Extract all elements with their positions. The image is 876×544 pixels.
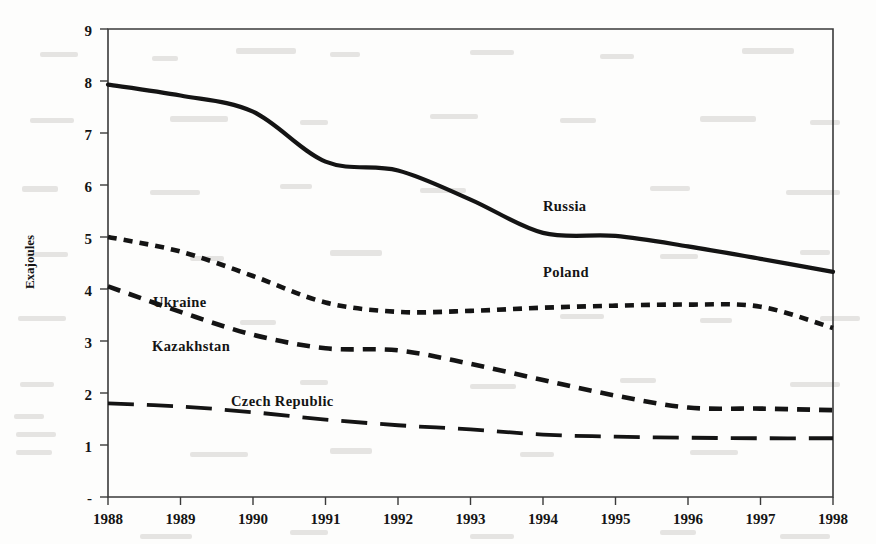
y-tick-label: 6 [85,179,93,195]
data-series-group [108,85,833,439]
y-axis-title: Exajoules [22,235,37,289]
y-tick-label: 5 [85,231,93,247]
line-chart: 9 8 7 6 5 4 3 2 1 - Exajoules [0,0,876,544]
x-tick-label: 1998 [818,511,848,527]
y-tick-label: 4 [85,283,93,299]
x-tick-label: 1996 [673,511,704,527]
y-tick-label: - [87,490,92,506]
x-tick-label: 1989 [166,511,196,527]
x-tick-label: 1994 [528,511,559,527]
series-line-russia [108,85,833,272]
x-axis-ticks [108,497,833,505]
series-label-russia: Russia [543,198,587,214]
y-tick-label: 7 [85,127,93,143]
y-axis-tick-labels: 9 8 7 6 5 4 3 2 1 - [85,23,93,506]
x-tick-label: 1992 [383,511,413,527]
series-line-czech-republic [108,403,833,438]
y-axis-ticks [100,29,108,497]
series-label-kazakhstan: Kazakhstan [152,338,230,354]
x-tick-label: 1990 [238,511,268,527]
x-tick-label: 1988 [93,511,123,527]
x-tick-label: 1991 [311,511,341,527]
series-label-ukraine: Ukraine [153,294,207,310]
x-tick-label: 1997 [746,511,777,527]
y-tick-label: 3 [85,335,93,351]
y-tick-label: 9 [85,23,93,39]
x-tick-label: 1993 [456,511,486,527]
series-label-czech-republic: Czech Republic [231,393,334,409]
y-tick-label: 8 [85,75,93,91]
x-tick-label: 1995 [601,511,631,527]
chart-figure: 9 8 7 6 5 4 3 2 1 - Exajoules [0,0,876,544]
series-label-poland: Poland [543,264,589,280]
y-tick-label: 2 [85,387,93,403]
y-tick-label: 1 [85,439,93,455]
x-axis-tick-labels: 1988 1989 1990 1991 1992 1993 1994 1995 … [93,511,848,527]
